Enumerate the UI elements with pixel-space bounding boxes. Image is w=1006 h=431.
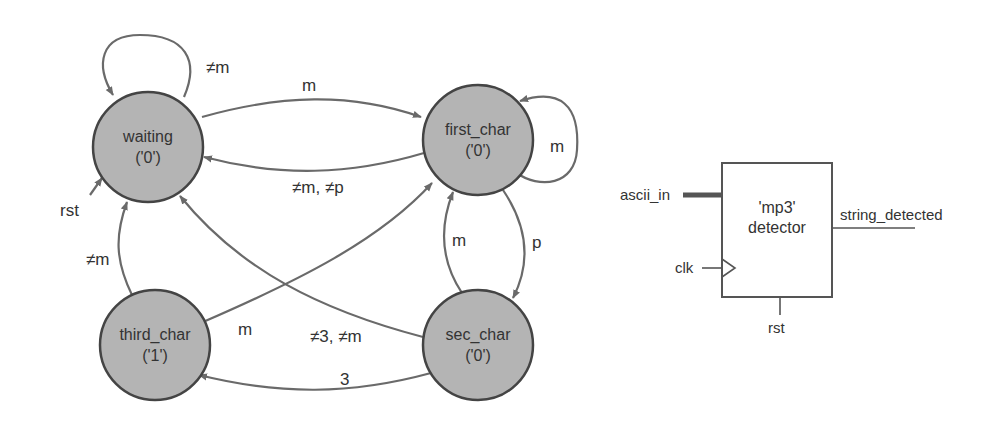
block-title-line2: detector xyxy=(748,219,806,236)
edge-label-sec-third: 3 xyxy=(340,370,349,389)
edge-label-first-self: m xyxy=(550,137,564,156)
state-name: waiting xyxy=(122,128,173,145)
edge-sec-third xyxy=(199,373,431,390)
state-name: sec_char xyxy=(446,326,512,344)
state-output: ('0') xyxy=(465,347,491,364)
state-name: first_char xyxy=(445,121,511,139)
fsm-diagram: ≠m m ≠m, ≠p m p m ≠3, ≠m 3 m ≠m rst wait… xyxy=(0,0,1006,431)
state-output: ('0') xyxy=(465,142,491,159)
edge-label-third-first: m xyxy=(238,320,252,339)
edge-label-first-sec: p xyxy=(532,233,541,252)
clk-label: clk xyxy=(675,259,694,276)
reset-arrow xyxy=(90,178,102,195)
state-name: third_char xyxy=(119,326,191,344)
ascii-in-label: ascii_in xyxy=(620,186,670,203)
state-output: ('1') xyxy=(142,347,168,364)
reset-label: rst xyxy=(60,201,79,220)
edge-label-waiting-self: ≠m xyxy=(206,58,230,77)
block-title-line1: 'mp3' xyxy=(758,199,795,216)
string-detected-label: string_detected xyxy=(840,206,943,223)
detector-block: 'mp3' detector ascii_in string_detected … xyxy=(620,163,943,336)
edge-label-waiting-first: m xyxy=(302,76,316,95)
edge-label-sec-waiting: ≠3, ≠m xyxy=(310,327,362,346)
state-sec-char: sec_char ('0') xyxy=(423,290,533,400)
edge-third-waiting xyxy=(119,202,132,295)
edge-first-sec xyxy=(503,190,525,298)
state-waiting: waiting ('0') xyxy=(93,92,203,202)
edge-waiting-first xyxy=(202,99,421,117)
edge-label-first-waiting: ≠m, ≠p xyxy=(292,178,344,197)
edge-label-sec-first: m xyxy=(452,231,466,250)
state-first-char: first_char ('0') xyxy=(423,85,533,195)
state-output: ('0') xyxy=(135,149,161,166)
edge-label-third-waiting: ≠m xyxy=(86,250,110,269)
edge-waiting-self xyxy=(103,35,190,97)
edge-first-waiting xyxy=(204,153,424,171)
state-third-char: third_char ('1') xyxy=(100,290,210,400)
rst-label: rst xyxy=(768,319,785,336)
